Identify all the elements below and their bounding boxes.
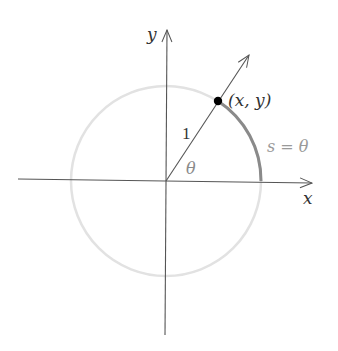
angle-label: θ (186, 159, 196, 178)
point-label: (x, y) (228, 90, 271, 110)
arc-s (218, 101, 261, 181)
x-axis (18, 179, 312, 183)
radius-label: 1 (182, 124, 191, 143)
unit-circle-diagram: y x (x, y) 1 θ s = θ (0, 0, 338, 351)
y-axis (165, 30, 167, 335)
point-marker (214, 97, 222, 105)
arc-label: s = θ (267, 137, 309, 156)
x-axis-label: x (303, 188, 313, 208)
y-axis-label: y (146, 24, 157, 44)
